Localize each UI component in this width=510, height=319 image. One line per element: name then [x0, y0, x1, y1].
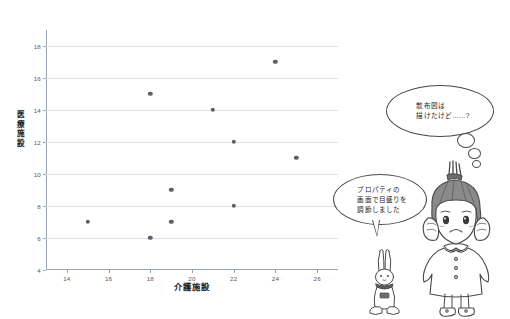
- y-tick-mark-10: [43, 174, 46, 175]
- x-tick-mark-22: [234, 270, 235, 273]
- y-tick-mark-4: [43, 270, 46, 271]
- screenshot-root: 医療施設 4681012141618 14161820222426 介護施設 散…: [0, 0, 510, 319]
- x-tick-mark-24: [275, 270, 276, 273]
- y-tick-mark-6: [43, 238, 46, 239]
- gridline-y-14: [46, 110, 338, 111]
- y-tick-label-10: 10: [34, 171, 41, 178]
- speech-bubble-text: プロパティの 画面で目盛りを 調節しました: [352, 185, 407, 215]
- y-tick-label-14: 14: [34, 107, 41, 114]
- scatter-chart: 医療施設 4681012141618 14161820222426 介護施設: [0, 0, 350, 300]
- y-tick-label-8: 8: [37, 203, 41, 210]
- gridline-y-6: [46, 238, 338, 239]
- y-tick-mark-8: [43, 206, 46, 207]
- gridline-y-18: [46, 46, 338, 47]
- plot-area: 4681012141618 14161820222426: [46, 30, 338, 270]
- y-tick-label-16: 16: [34, 75, 41, 82]
- rabbit-character-illustration: [362, 247, 408, 319]
- y-tick-label-6: 6: [37, 235, 41, 242]
- thought-tail-bubble-large: [457, 133, 475, 148]
- gridline-y-12: [46, 142, 338, 143]
- gridline-y-10: [46, 174, 338, 175]
- gridline-y-16: [46, 78, 338, 79]
- y-tick-label-4: 4: [37, 267, 41, 274]
- x-axis-title: 介護施設: [46, 280, 338, 292]
- y-tick-label-12: 12: [34, 139, 41, 146]
- x-tick-mark-26: [317, 270, 318, 273]
- x-tick-mark-20: [192, 270, 193, 273]
- thought-bubble-text: 散布図は 描けたけど……?: [410, 101, 469, 121]
- plot-frame: [46, 30, 338, 270]
- x-tick-mark-18: [150, 270, 151, 273]
- x-tick-mark-16: [109, 270, 110, 273]
- gridline-y-8: [46, 206, 338, 207]
- girl-character-illustration: [404, 158, 510, 319]
- y-tick-label-18: 18: [34, 43, 41, 50]
- y-tick-mark-18: [43, 46, 46, 47]
- y-tick-mark-16: [43, 78, 46, 79]
- y-tick-mark-14: [43, 110, 46, 111]
- y-tick-mark-12: [43, 142, 46, 143]
- thought-bubble: 散布図は 描けたけど……?: [386, 85, 494, 137]
- y-axis-title: 医療施設: [15, 110, 26, 148]
- x-tick-mark-14: [67, 270, 68, 273]
- speech-bubble-tail: [372, 220, 380, 237]
